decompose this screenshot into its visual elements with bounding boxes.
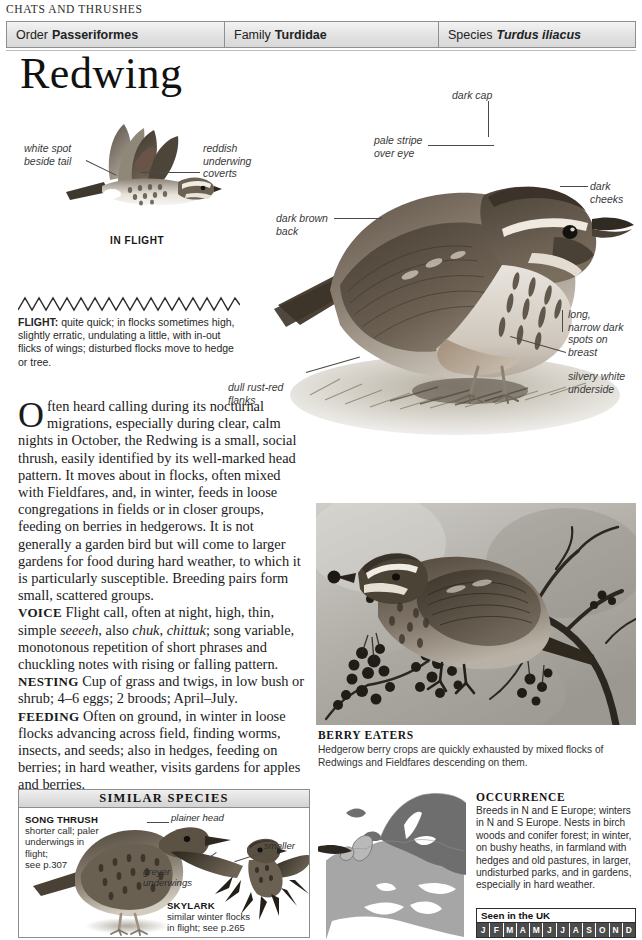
species-value: Turdus iliacus xyxy=(496,28,581,42)
family-value: Turdidae xyxy=(275,28,327,42)
berry-caption-text: Hedgerow berry crops are quickly exhaust… xyxy=(318,743,636,769)
month-cell: J xyxy=(477,923,490,937)
label-reddish-coverts: reddish underwing coverts xyxy=(203,142,251,180)
month-cell: M xyxy=(504,923,517,937)
voice-italic-2: chuk xyxy=(132,622,159,638)
seen-in-uk-box: Seen in the UK JFMAMJJASOND xyxy=(476,908,636,938)
label-pale-stripe: pale stripe over eye xyxy=(374,134,422,159)
month-cell: A xyxy=(517,923,530,937)
month-cell: N xyxy=(610,923,623,937)
order-label: Order xyxy=(16,28,48,42)
voice-italic-3: chittuk xyxy=(167,622,206,638)
voice-text-3: , xyxy=(160,622,167,638)
skylark-name: SKYLARK xyxy=(167,900,215,911)
voice-section: VOICE Flight call, often at night, high,… xyxy=(18,604,308,673)
distribution-map xyxy=(318,789,466,940)
feeding-heading: FEEDING xyxy=(18,709,79,724)
label-greyer-underwings: greyer underwings xyxy=(143,866,192,889)
leader-dark-brown-back xyxy=(334,218,382,219)
label-plainer-head: plainer head xyxy=(171,812,224,823)
occurrence-title: OCCURRENCE xyxy=(476,791,565,803)
label-silvery-underside: silvery white underside xyxy=(568,370,625,395)
label-smaller: smaller xyxy=(264,840,295,851)
taxonomy-bar: Order Passeriformes Family Turdidae Spec… xyxy=(6,21,636,48)
intro-paragraph: ften heard calling during its nocturnal … xyxy=(18,398,301,603)
taxonomy-family-cell: Family Turdidae xyxy=(225,22,439,47)
species-description: Often heard calling during its nocturnal… xyxy=(18,398,308,794)
seen-in-uk-title: Seen in the UK xyxy=(477,909,635,923)
occurrence-text: Breeds in N and E Europe; winters in N a… xyxy=(476,805,638,892)
month-cell: S xyxy=(583,923,596,937)
label-breast-spots: long, narrow dark spots on breast xyxy=(568,308,623,358)
in-flight-caption: IN FLIGHT xyxy=(110,235,164,246)
leader-dark-cap xyxy=(488,101,489,137)
flight-pattern-icon xyxy=(18,296,240,312)
month-cell: M xyxy=(530,923,543,937)
voice-text-2: , also xyxy=(98,622,132,638)
taxonomy-order-cell: Order Passeriformes xyxy=(7,22,225,47)
label-dark-brown-back: dark brown back xyxy=(276,212,328,237)
month-cell: D xyxy=(623,923,635,937)
berry-caption-title: BERRY EATERS xyxy=(318,729,414,741)
order-value: Passeriformes xyxy=(52,28,138,42)
month-cell: F xyxy=(490,923,503,937)
label-dark-cap: dark cap xyxy=(452,89,492,102)
label-dark-cheeks: dark cheeks xyxy=(590,180,623,205)
similar-species-body: SONG THRUSH shorter call; paler underwin… xyxy=(19,808,309,937)
month-cell: J xyxy=(543,923,556,937)
leader-breast-spots xyxy=(562,310,563,332)
skylark-desc: similar winter flocks in flight; see p.2… xyxy=(167,911,250,934)
drop-cap: O xyxy=(18,398,46,430)
leader-dark-cheeks xyxy=(560,186,588,187)
song-thrush-name: SONG THRUSH xyxy=(25,814,98,825)
voice-italic-1: seeeeh xyxy=(60,622,98,638)
feeding-section: FEEDING Often on ground, in winter in lo… xyxy=(18,708,308,794)
month-cell: J xyxy=(557,923,570,937)
song-thrush-desc: shorter call; paler underwings in flight… xyxy=(25,825,99,871)
leader-pale-stripe xyxy=(428,145,494,146)
flight-heading: FLIGHT: xyxy=(18,316,58,328)
month-cell: A xyxy=(570,923,583,937)
nesting-heading: NESTING xyxy=(18,674,79,689)
berry-eaters-photo xyxy=(316,503,636,725)
label-white-spot: white spot beside tail xyxy=(24,142,71,167)
family-label: Family xyxy=(234,28,271,42)
similar-species-box: SIMILAR SPECIES xyxy=(18,789,310,938)
running-head: CHATS AND THRUSHES xyxy=(6,3,142,15)
month-cell: O xyxy=(596,923,609,937)
page-title: Redwing xyxy=(20,52,182,96)
voice-heading: VOICE xyxy=(18,605,62,620)
taxonomy-species-cell: Species Turdus iliacus xyxy=(439,22,635,47)
leader-reddish-coverts xyxy=(140,172,200,173)
nesting-section: NESTING Cup of grass and twigs, in low b… xyxy=(18,673,308,707)
similar-species-heading: SIMILAR SPECIES xyxy=(19,790,309,808)
species-label: Species xyxy=(448,28,492,42)
leader-plainer-head xyxy=(147,822,169,823)
months-row: JFMAMJJASOND xyxy=(477,923,635,937)
flight-description: FLIGHT: quite quick; in flocks sometimes… xyxy=(18,316,236,369)
